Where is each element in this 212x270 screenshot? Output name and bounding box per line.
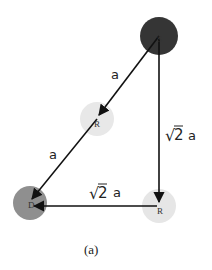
node-r1-label: R <box>94 119 100 129</box>
edge-s-r1-label: a <box>111 67 119 82</box>
figure-caption: (a) <box>84 242 98 257</box>
edge-r1-to-d <box>32 119 97 199</box>
node-d-label: D <box>28 200 35 210</box>
node-s-label: S <box>157 34 162 44</box>
edge-s-r2-label: √ 2 a <box>165 126 196 145</box>
edge-s-to-r1 <box>99 36 159 115</box>
edge-s-r2-value: 2 <box>174 126 184 144</box>
edge-r2-d-value: 2 <box>98 184 108 202</box>
edge-r1-d-label: a <box>49 147 57 162</box>
node-r2-label: R <box>157 206 163 216</box>
relay-network-diagram: S R D R a a √ 2 a √ 2 a (a) <box>0 0 212 270</box>
edge-r2-d-suffix: a <box>113 185 121 200</box>
edge-s-r2-suffix: a <box>188 128 196 143</box>
edge-r2-d-label: √ 2 a <box>89 184 121 203</box>
